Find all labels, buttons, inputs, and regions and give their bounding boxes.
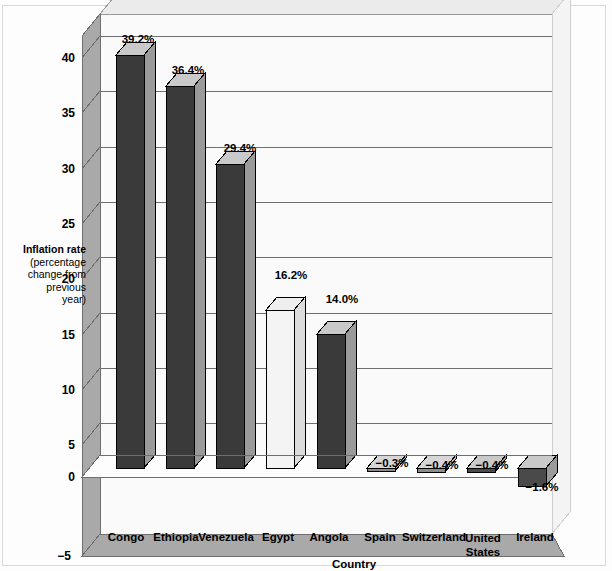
y-tick-20: 20 <box>45 273 75 285</box>
x-axis-title: Country <box>294 558 414 570</box>
y-axis-title-line-4: year) <box>2 293 86 306</box>
bar-angola[interactable] <box>317 321 356 468</box>
y-tick-0: 0 <box>45 471 75 483</box>
y-axis-title-line-0: Inflation rate <box>2 243 86 256</box>
data-label-ireland: −1.6% <box>512 481 572 493</box>
data-label-angola: 14.0% <box>312 293 372 305</box>
data-label-venezuela: 29.4% <box>210 142 270 154</box>
y-tick-15: 15 <box>45 329 75 341</box>
y-tick-30: 30 <box>45 163 75 175</box>
bar-congo[interactable] <box>116 42 155 468</box>
y-tick-5: 5 <box>45 439 75 451</box>
bar-egypt[interactable] <box>266 297 305 468</box>
y-tick-10: 10 <box>45 384 75 396</box>
bar-ethiopia[interactable] <box>166 73 205 468</box>
data-label-congo: 39.2% <box>108 33 168 45</box>
chart-right-wall <box>552 0 570 534</box>
data-label-ethiopia: 36.4% <box>158 64 218 76</box>
x-tick-ireland: Ireland <box>500 531 570 544</box>
y-tick-neg5: −5 <box>41 550 71 562</box>
y-tick-35: 35 <box>45 107 75 119</box>
chart-top-wall <box>100 0 570 14</box>
y-tick-25: 25 <box>45 218 75 230</box>
y-axis-title-line-1: (percentage <box>2 256 86 269</box>
data-label-egypt: 16.2% <box>261 269 321 281</box>
data-label-united-states: −0.4% <box>462 459 522 471</box>
chart-page: Inflation rates for selected countries <box>0 0 612 571</box>
bar-venezuela[interactable] <box>216 151 255 468</box>
y-tick-40: 40 <box>45 52 75 64</box>
